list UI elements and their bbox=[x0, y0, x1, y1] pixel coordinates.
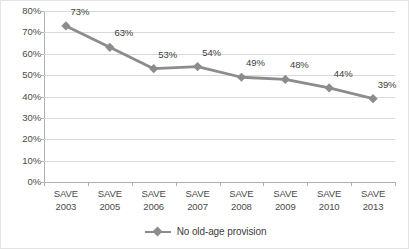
x-tick-mark bbox=[220, 182, 221, 186]
data-point-label: 44% bbox=[334, 68, 353, 79]
y-tick-label: 80% bbox=[5, 6, 41, 16]
data-point-marker bbox=[281, 75, 290, 84]
x-tick-mark bbox=[44, 182, 45, 186]
x-tick-label: SAVE2009 bbox=[263, 187, 307, 213]
data-point-marker bbox=[325, 83, 334, 92]
y-tick-label: 0% bbox=[5, 177, 41, 187]
data-point-label: 53% bbox=[158, 49, 177, 60]
y-tick-label: 10% bbox=[5, 156, 41, 166]
x-axis: SAVE2003SAVE2005SAVE2006SAVE2007SAVE2008… bbox=[44, 187, 396, 221]
y-axis: 80%70%60%50%40%30%20%10%0% bbox=[1, 1, 41, 249]
data-point-label: 54% bbox=[202, 47, 221, 58]
y-tick-label: 50% bbox=[5, 70, 41, 80]
data-point-label: 73% bbox=[71, 6, 90, 17]
x-tick-mark bbox=[307, 182, 308, 186]
data-point-marker bbox=[193, 62, 202, 71]
legend: No old-age provision bbox=[1, 226, 409, 237]
series-line-no-old-age-provision bbox=[44, 11, 395, 182]
data-point-label: 63% bbox=[114, 27, 133, 38]
x-tick-label: SAVE2005 bbox=[88, 187, 132, 213]
x-tick-label: SAVE2007 bbox=[176, 187, 220, 213]
x-tick-mark bbox=[395, 182, 396, 186]
y-tick-label: 30% bbox=[5, 113, 41, 123]
plot-area: 73%63%53%54%49%48%44%39% bbox=[44, 11, 395, 182]
data-point-marker bbox=[61, 21, 70, 30]
y-tick-label: 60% bbox=[5, 49, 41, 59]
data-point-label: 49% bbox=[246, 57, 265, 68]
y-tick-label: 40% bbox=[5, 92, 41, 102]
x-tick-mark bbox=[351, 182, 352, 186]
y-tick-label: 20% bbox=[5, 134, 41, 144]
x-tick-label: SAVE2008 bbox=[220, 187, 264, 213]
x-tick-mark bbox=[132, 182, 133, 186]
x-tick-label: SAVE2013 bbox=[351, 187, 395, 213]
y-tick-label: 70% bbox=[5, 27, 41, 37]
x-tick-label: SAVE2006 bbox=[132, 187, 176, 213]
x-tick-label: SAVE2003 bbox=[44, 187, 88, 213]
x-tick-mark bbox=[263, 182, 264, 186]
legend-marker-icon bbox=[145, 227, 171, 237]
data-point-marker bbox=[149, 64, 158, 73]
chart-canvas: 80%70%60%50%40%30%20%10%0% 73%63%53%54%4… bbox=[0, 0, 409, 249]
data-point-marker bbox=[368, 94, 377, 103]
legend-label: No old-age provision bbox=[177, 226, 267, 237]
data-point-marker bbox=[105, 43, 114, 52]
x-tick-mark bbox=[176, 182, 177, 186]
data-point-marker bbox=[237, 73, 246, 82]
data-point-label: 48% bbox=[290, 59, 309, 70]
data-point-label: 39% bbox=[378, 79, 397, 90]
x-tick-mark bbox=[88, 182, 89, 186]
x-tick-label: SAVE2010 bbox=[307, 187, 351, 213]
